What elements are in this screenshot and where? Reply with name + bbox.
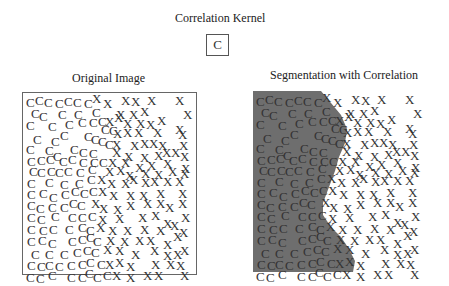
glyph-c: C xyxy=(274,95,283,108)
glyph-x: X xyxy=(408,196,417,209)
glyph-c: C xyxy=(26,271,35,284)
glyph-x: X xyxy=(322,91,331,104)
glyph-c: C xyxy=(266,271,275,284)
glyph-x: X xyxy=(333,96,342,109)
glyph-x: X xyxy=(154,269,163,282)
glyph-x: X xyxy=(135,234,144,247)
glyph-x: X xyxy=(143,269,152,282)
kernel-symbol: C xyxy=(213,37,222,53)
glyph-x: X xyxy=(112,269,121,282)
glyph-x: X xyxy=(103,97,112,110)
glyph-x: X xyxy=(96,221,105,234)
glyph-x: X xyxy=(396,257,405,270)
glyph-x: X xyxy=(126,271,135,284)
glyph-x: X xyxy=(333,242,342,255)
glyph-c: C xyxy=(48,120,57,133)
glyph-x: X xyxy=(410,243,419,256)
glyph-c: C xyxy=(38,234,47,247)
glyph-c: C xyxy=(256,270,265,283)
glyph-x: X xyxy=(175,94,184,107)
original-image-glyphs: CCCCCCCXXXXXXCCCCCXXXXCCCCCCXXXXXXXCCXXX… xyxy=(23,93,196,274)
glyph-c: C xyxy=(278,268,287,281)
glyph-x: X xyxy=(365,233,374,246)
glyph-x: X xyxy=(326,220,335,233)
glyph-x: X xyxy=(150,244,159,257)
glyph-c: C xyxy=(78,116,87,129)
glyph-x: X xyxy=(405,93,414,106)
glyph-c: C xyxy=(44,96,53,109)
glyph-c: C xyxy=(297,270,306,283)
glyph-x: X xyxy=(356,270,365,283)
glyph-c: C xyxy=(308,115,317,128)
glyph-x: X xyxy=(351,93,360,106)
glyph-x: X xyxy=(380,243,389,256)
glyph-x: X xyxy=(370,136,379,149)
glyph-x: X xyxy=(386,223,395,236)
glyph-x: X xyxy=(342,268,351,281)
glyph-c: C xyxy=(60,129,69,142)
glyph-x: X xyxy=(384,268,393,281)
segmentation-title: Segmentation with Correlation xyxy=(270,68,418,83)
segmentation-panel: CCCCCCCXXXXXXCCCCCXXXXCCCCCCXXXXXXXCCXXX… xyxy=(253,91,449,276)
glyph-x: X xyxy=(356,198,365,211)
glyph-c: C xyxy=(89,116,98,129)
original-image-panel: CCCCCCCXXXXXXCCCCCXXXXCCCCCCXXXXXXXCCXXX… xyxy=(22,92,197,275)
glyph-x: X xyxy=(359,172,368,185)
glyph-x: X xyxy=(180,244,189,257)
glyph-x: X xyxy=(166,258,175,271)
glyph-c: C xyxy=(269,186,278,199)
glyph-c: C xyxy=(256,118,265,131)
glyph-x: X xyxy=(410,268,419,281)
glyph-x: X xyxy=(171,146,180,159)
glyph-x: X xyxy=(121,94,130,107)
glyph-x: X xyxy=(92,92,101,105)
glyph-x: X xyxy=(180,269,189,282)
glyph-x: X xyxy=(395,200,404,213)
glyph-x: X xyxy=(339,188,348,201)
glyph-c: C xyxy=(319,115,328,128)
glyph-x: X xyxy=(140,137,149,150)
glyph-c: C xyxy=(36,272,45,285)
glyph-x: X xyxy=(413,107,422,120)
glyph-c: C xyxy=(67,271,76,284)
glyph-c: C xyxy=(39,110,48,123)
glyph-x: X xyxy=(156,224,165,237)
glyph-c: C xyxy=(93,271,102,284)
glyph-x: X xyxy=(173,230,182,243)
glyph-c: C xyxy=(39,187,48,200)
segmentation-glyphs: CCCCCCCXXXXXXCCCCCXXXXCCCCCCXXXXXXXCCXXX… xyxy=(253,91,449,276)
glyph-c: C xyxy=(290,128,299,141)
glyph-x: X xyxy=(151,209,160,222)
kernel-box: C xyxy=(206,34,229,56)
glyph-c: C xyxy=(323,270,332,283)
glyph-x: X xyxy=(181,211,190,224)
glyph-x: X xyxy=(129,173,138,186)
glyph-x: X xyxy=(401,145,410,158)
glyph-x: X xyxy=(126,199,135,212)
glyph-c: C xyxy=(278,119,287,132)
glyph-c: C xyxy=(103,269,112,282)
glyph-c: C xyxy=(268,233,277,246)
glyph-x: X xyxy=(178,197,187,210)
glyph-x: X xyxy=(373,268,382,281)
glyph-c: C xyxy=(48,269,57,282)
glyph-c: C xyxy=(26,119,35,132)
glyph-c: C xyxy=(333,268,342,281)
glyph-x: X xyxy=(411,210,420,223)
glyph-x: X xyxy=(403,229,412,242)
glyph-x: X xyxy=(165,201,174,214)
glyph-x: X xyxy=(109,189,118,202)
glyph-x: X xyxy=(183,108,192,121)
original-image-title: Original Image xyxy=(72,71,145,86)
kernel-title: Correlation Kernel xyxy=(175,11,265,26)
glyph-c: C xyxy=(269,109,278,122)
glyph-x: X xyxy=(381,208,390,221)
glyph-x: X xyxy=(103,243,112,256)
glyph-c: C xyxy=(279,222,288,235)
glyph-c: C xyxy=(49,223,58,236)
